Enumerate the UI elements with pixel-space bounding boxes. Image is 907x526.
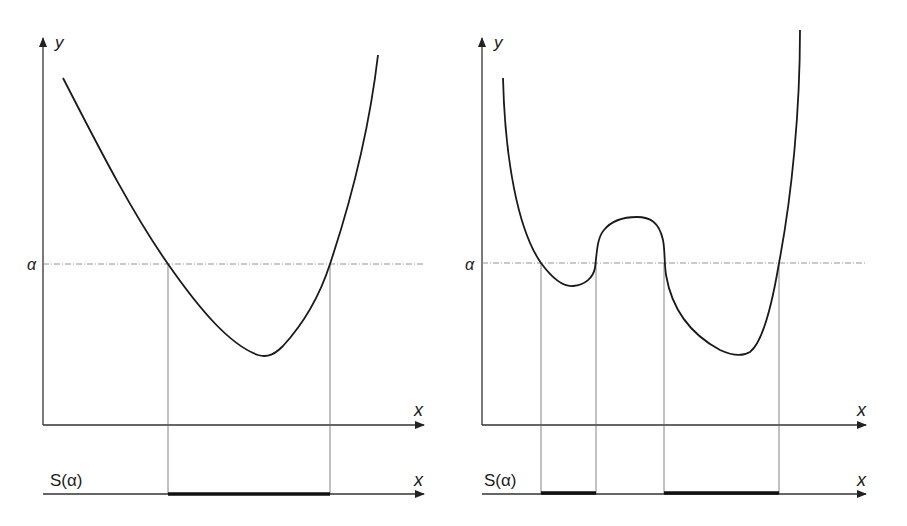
left-x-label: x xyxy=(413,400,424,420)
right-y-label: y xyxy=(493,33,504,52)
right-set-x-label: x xyxy=(856,470,867,490)
left-alpha-label: α xyxy=(27,256,37,273)
right-curve xyxy=(503,30,800,355)
right-alpha-label: α xyxy=(465,256,475,273)
left-y-label: y xyxy=(54,33,65,52)
left-panel: y α x S(α) x xyxy=(27,33,424,494)
left-set-label: S(α) xyxy=(50,471,83,490)
left-curve xyxy=(63,55,378,356)
right-set-label: S(α) xyxy=(484,471,517,490)
right-panel: y α x S(α) x xyxy=(465,30,867,494)
left-set-x-label: x xyxy=(413,470,424,490)
sublevel-set-diagram: y α x S(α) x y α x S(α) x xyxy=(0,0,907,526)
right-x-label: x xyxy=(856,400,867,420)
